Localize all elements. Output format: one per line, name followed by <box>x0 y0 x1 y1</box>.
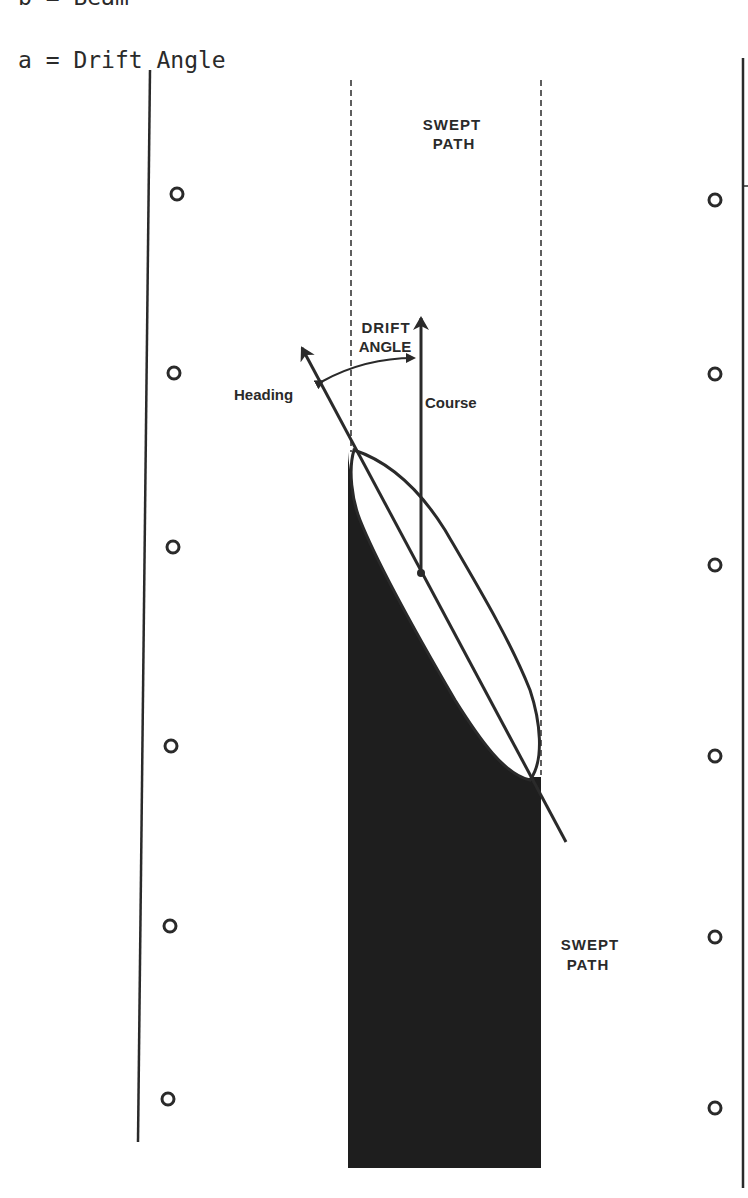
heading-label: Heading <box>234 386 293 403</box>
left-buoys <box>162 188 183 1105</box>
drift-angle-label: DRIFT <box>361 319 410 336</box>
svg-text:PATH: PATH <box>433 135 476 152</box>
course-label: Course <box>425 394 477 411</box>
left-channel-bank <box>138 70 150 1142</box>
buoy-icon <box>709 559 721 571</box>
drift-angle-diagram: SWEPT PATH DRIFT ANGLE Heading Course SW… <box>0 0 748 1198</box>
buoy-icon <box>709 1102 721 1114</box>
right-buoys <box>709 194 721 1114</box>
swept-path-label-top: SWEPT <box>423 116 481 133</box>
buoy-icon <box>168 367 180 379</box>
buoy-icon <box>162 1093 174 1105</box>
buoy-icon <box>709 194 721 206</box>
buoy-icon <box>709 750 721 762</box>
swept-path-label-bottom: SWEPT <box>561 936 619 953</box>
buoy-icon <box>709 368 721 380</box>
drift-angle-arc <box>323 358 414 381</box>
svg-text:ANGLE: ANGLE <box>359 338 412 355</box>
buoy-icon <box>709 931 721 943</box>
svg-text:PATH: PATH <box>567 956 610 973</box>
buoy-icon <box>167 541 179 553</box>
buoy-icon <box>164 920 176 932</box>
buoy-icon <box>165 740 177 752</box>
buoy-icon <box>171 188 183 200</box>
pivot-point <box>417 569 425 577</box>
